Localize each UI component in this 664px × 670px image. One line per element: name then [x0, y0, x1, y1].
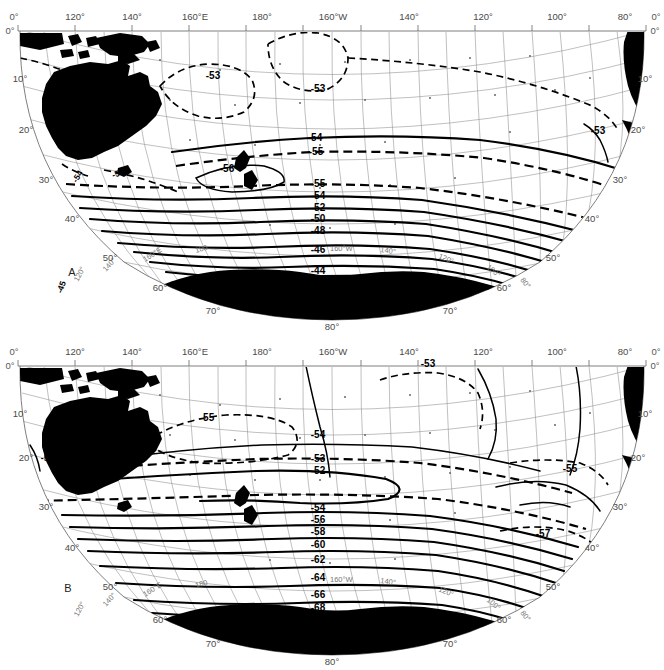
lon-label-120e-b: 120° — [65, 346, 85, 357]
svg-text:160°W: 160°W — [330, 244, 354, 253]
lon-label-120w-a: 120° — [473, 11, 493, 22]
lat-label-80-bottom-b: 80° — [325, 656, 340, 667]
lat-label-30-right-b: 30° — [613, 501, 628, 512]
contour-label: -55 — [200, 412, 215, 423]
svg-text:100°: 100° — [485, 262, 503, 279]
lon-label-120e-a: 120° — [65, 11, 85, 22]
top-ticks-b — [18, 360, 646, 366]
panel-b-svg: 0° 120° 140° 160°E 180° 160°W 140° 120° … — [0, 335, 664, 670]
lon-label-140w-a: 140° — [399, 11, 419, 22]
contour-label: -52 — [311, 465, 326, 476]
lat-label-10-left-b: 10° — [13, 408, 28, 419]
top-ticks-a — [18, 25, 646, 31]
lat-label-70-left-a: 70° — [206, 305, 221, 316]
lon-label-160e-b: 160°E — [182, 346, 208, 357]
contour-label: -55 — [311, 178, 326, 189]
lon-label-100w-b: 100° — [547, 346, 567, 357]
lon-label-120w-b: 120° — [473, 346, 493, 357]
contour-label: -54 — [311, 502, 326, 513]
lon-label-0-left-a: 0° — [9, 11, 18, 22]
contour-label: -66 — [311, 589, 326, 600]
lat-label-0-left-a: 0° — [5, 25, 14, 36]
lon-label-140e-a: 140° — [122, 11, 142, 22]
contour-label: -45 — [54, 279, 68, 294]
lat-label-30-left-a: 30° — [39, 174, 54, 185]
lon-label-100w-a: 100° — [547, 11, 567, 22]
contour-label: -72 — [302, 621, 315, 631]
landmasses-b — [20, 359, 646, 657]
map-panel-b: 0° 120° 140° 160°E 180° 160°W 140° 120° … — [0, 335, 664, 670]
lat-label-70-right-a: 70° — [443, 305, 458, 316]
lat-label-60-right-a: 60° — [497, 282, 512, 293]
contour-label: -53 — [206, 70, 221, 81]
lat-label-50-left-b: 50° — [103, 581, 118, 592]
panel-a-svg: 0° 120° 140° 160°E 180° 160°W 140° 120° … — [0, 0, 664, 335]
lat-label-30-right-a: 30° — [613, 174, 628, 185]
svg-text:140°: 140° — [101, 591, 118, 609]
lon-label-180-b: 180° — [252, 346, 272, 357]
lat-label-40-left-a: 40° — [65, 213, 80, 224]
lat-label-70-right-b: 70° — [443, 638, 458, 649]
lat-label-40-right-a: 40° — [585, 213, 600, 224]
svg-text:160°W: 160°W — [330, 575, 354, 584]
lat-label-10-right-b: 10° — [638, 408, 653, 419]
lat-label-50-left-a: 50° — [103, 252, 118, 263]
figure-container: 0° 120° 140° 160°E 180° 160°W 140° 120° … — [0, 0, 664, 670]
lon-label-160w-a: 160°W — [319, 11, 348, 22]
lat-label-10-left-a: 10° — [13, 73, 28, 84]
lat-label-50-right-a: 50° — [546, 252, 561, 263]
lon-label-0-left-b: 0° — [9, 346, 18, 357]
contour-label: -64 — [311, 572, 326, 583]
lon-label-80w-a: 80° — [618, 11, 633, 22]
contour-label: -52 — [311, 202, 326, 213]
contour-label: -53 — [421, 358, 436, 369]
lat-label-60-right-b: 60° — [497, 614, 512, 625]
lat-label-80-bottom-a: 80° — [325, 321, 340, 332]
contour-label: -60 — [311, 539, 326, 550]
svg-text:120°: 120° — [437, 585, 455, 599]
svg-text:140°: 140° — [380, 245, 397, 256]
lat-label-60-left-a: 60° — [153, 282, 168, 293]
contour-label: -50 — [311, 213, 326, 224]
contour-label: -56 — [311, 514, 326, 525]
lat-label-20-right-a: 20° — [631, 124, 646, 135]
contour-label: -53 — [311, 453, 326, 464]
lon-label-180-a: 180° — [252, 11, 272, 22]
lon-label-0-right-a: 0° — [651, 11, 660, 22]
lat-label-10-right-a: 10° — [638, 73, 653, 84]
svg-text:100°: 100° — [485, 595, 503, 612]
lat-label-30-left-b: 30° — [39, 501, 54, 512]
lat-label-60-left-b: 60° — [153, 614, 168, 625]
map-panel-a: 0° 120° 140° 160°E 180° 160°W 140° 120° … — [0, 0, 664, 335]
contour-label: -46 — [311, 244, 326, 255]
lat-label-0-right-a: 0° — [650, 25, 659, 36]
lat-label-40-right-b: 40° — [585, 542, 600, 553]
contour-label: -62 — [311, 554, 326, 565]
panel-letter-b: B — [64, 582, 71, 594]
contour-label: -53 — [311, 83, 326, 94]
lon-label-0-right-b: 0° — [651, 346, 660, 357]
svg-text:80°: 80° — [518, 609, 532, 623]
contour-label: -70 — [300, 611, 313, 621]
lon-label-160e-a: 160°E — [182, 11, 208, 22]
lat-label-0-right-b: 0° — [650, 360, 659, 371]
contour-label: -58 — [311, 526, 326, 537]
svg-text:160°E: 160°E — [141, 580, 163, 599]
contour-label: -54 — [41, 453, 54, 463]
contour-label: -68 — [311, 602, 326, 613]
lon-label-140w-b: 140° — [399, 346, 419, 357]
contour-label: -42 — [307, 284, 322, 295]
contour-label: -55 — [309, 146, 324, 157]
svg-text:160°E: 160°E — [141, 245, 163, 264]
lat-label-20-right-b: 20° — [631, 452, 646, 463]
contour-label: -53 — [591, 125, 606, 136]
contour-label: -57 — [536, 528, 551, 539]
lat-label-20-left-b: 20° — [19, 452, 34, 463]
lat-label-20-left-a: 20° — [19, 124, 34, 135]
lon-label-160w-b: 160°W — [319, 346, 348, 357]
contour-label: -54 — [311, 190, 326, 201]
contour-label: -54 — [311, 429, 326, 440]
contour-label: -55 — [563, 463, 578, 474]
svg-text:80°: 80° — [518, 276, 532, 290]
lat-label-40-left-b: 40° — [65, 542, 80, 553]
